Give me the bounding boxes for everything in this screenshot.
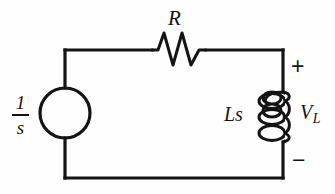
inductor-voltage-subscript: L — [312, 111, 320, 126]
resistor-zigzag — [152, 33, 206, 65]
polarity-minus-sign: − — [292, 149, 305, 172]
inductor-voltage-label: VL — [300, 102, 321, 126]
inductor-voltage-symbol: V — [300, 101, 312, 123]
circuit-diagram-canvas: R Ls VL 1 s + − — [0, 0, 335, 194]
fraction-bar — [12, 114, 29, 116]
polarity-plus-sign: + — [291, 55, 304, 78]
voltage-source-symbol — [40, 88, 90, 138]
inductor-label: Ls — [224, 104, 243, 124]
inductor-loop-3 — [259, 126, 285, 141]
source-numerator: 1 — [14, 93, 28, 113]
source-denominator: s — [15, 117, 26, 137]
source-label-fraction: 1 s — [12, 93, 29, 137]
resistor-label: R — [168, 8, 181, 29]
